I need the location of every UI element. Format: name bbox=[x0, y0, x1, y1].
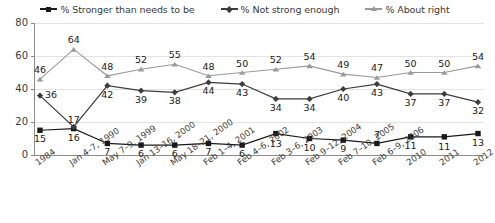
data-label: 34 bbox=[303, 103, 315, 113]
data-label: 40 bbox=[337, 93, 349, 103]
data-label: 42 bbox=[101, 90, 113, 100]
data-label: 17 bbox=[68, 115, 80, 125]
data-label: 54 bbox=[472, 52, 484, 62]
data-label: 43 bbox=[236, 88, 248, 98]
data-label: 32 bbox=[472, 106, 484, 116]
data-point-marker bbox=[442, 134, 447, 139]
data-label: 37 bbox=[438, 98, 450, 108]
data-label: 48 bbox=[101, 62, 113, 72]
data-label: 49 bbox=[337, 60, 349, 70]
data-point-marker bbox=[37, 128, 42, 133]
data-label: 13 bbox=[472, 138, 484, 148]
data-label: 54 bbox=[303, 52, 315, 62]
data-label: 37 bbox=[405, 98, 417, 108]
data-label: 43 bbox=[371, 88, 383, 98]
data-label: 39 bbox=[135, 95, 147, 105]
data-label: 64 bbox=[68, 35, 80, 45]
data-label: 15 bbox=[34, 134, 46, 144]
data-label: 47 bbox=[371, 63, 383, 73]
data-label: 52 bbox=[270, 55, 282, 65]
data-label: 16 bbox=[68, 133, 80, 143]
data-label: 50 bbox=[438, 59, 450, 69]
data-label: 38 bbox=[169, 96, 181, 106]
data-label: 50 bbox=[405, 59, 417, 69]
data-label: 50 bbox=[236, 59, 248, 69]
data-label: 36 bbox=[45, 90, 57, 100]
data-label: 44 bbox=[202, 86, 214, 96]
data-label: 46 bbox=[34, 65, 46, 75]
data-label: 55 bbox=[169, 50, 181, 60]
data-point-marker bbox=[70, 47, 77, 52]
data-label: 34 bbox=[270, 103, 282, 113]
data-point-marker bbox=[475, 131, 480, 136]
data-label: 52 bbox=[135, 55, 147, 65]
data-label: 48 bbox=[202, 62, 214, 72]
